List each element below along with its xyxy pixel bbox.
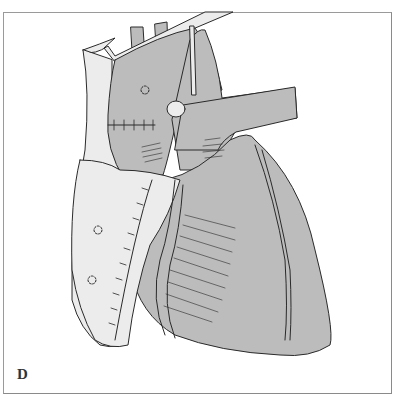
panel-label: D bbox=[17, 366, 28, 383]
cannula-bulb bbox=[167, 101, 185, 117]
heart-illustration bbox=[0, 0, 396, 402]
